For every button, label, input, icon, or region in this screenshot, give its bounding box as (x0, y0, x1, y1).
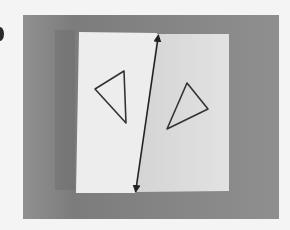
folded-paper-photo (0, 0, 290, 230)
